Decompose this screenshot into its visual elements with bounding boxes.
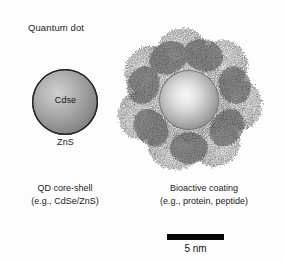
bioconjugate-caption-line2: (e.g., protein, peptide): [128, 195, 280, 208]
scale-bar: [167, 234, 224, 240]
quantum-dot-label: Quantum dot: [28, 22, 84, 33]
bioconjugate-caption-line1: Bioactive coating: [128, 182, 280, 195]
nanoparticle-core: [160, 71, 218, 129]
scale-bar-label: 5 nm: [150, 243, 241, 254]
qd-shell-label: ZnS: [33, 137, 98, 148]
qd-core-label: Cdse: [33, 95, 98, 106]
bioconjugate-caption: Bioactive coating (e.g., protein, peptid…: [128, 182, 280, 207]
qd-caption: QD core-shell (e.g., CdSe/ZnS): [4, 182, 126, 207]
qd-caption-line1: QD core-shell: [4, 182, 126, 195]
figure-canvas: Quantum dot Cdse ZnS: [0, 0, 284, 261]
qd-caption-line2: (e.g., CdSe/ZnS): [4, 195, 126, 208]
bioconjugate-nanoparticle: [110, 22, 268, 180]
